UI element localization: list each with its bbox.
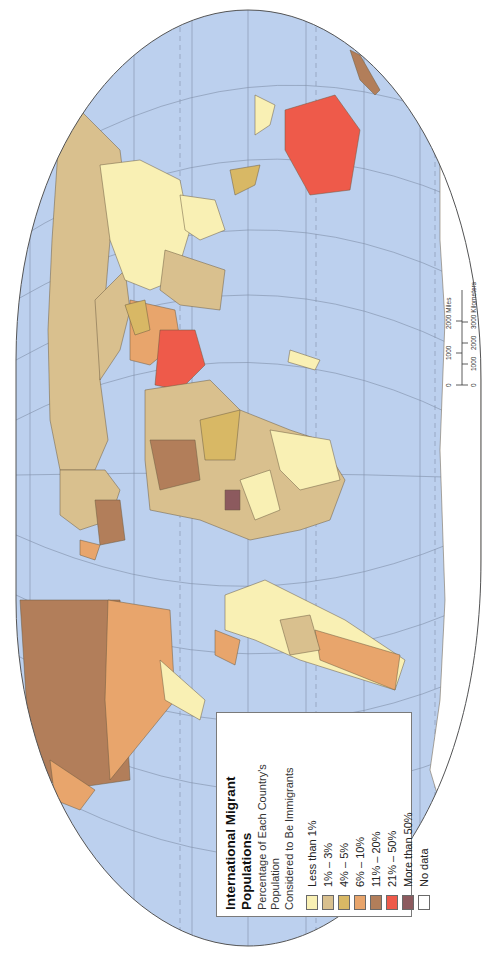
legend-label: 6% – 10% bbox=[354, 837, 366, 887]
legend-subtitle-line2: Considered to Be Immigrants bbox=[283, 721, 296, 910]
legend-item: 4% – 5% bbox=[336, 721, 352, 910]
legend-subtitle-line1: Percentage of Each Country's Population bbox=[256, 721, 282, 910]
scale-miles-tick: 1000 bbox=[445, 346, 452, 360]
legend-label: More than 50% bbox=[402, 812, 414, 887]
scale-km-tick: 1000 bbox=[470, 357, 477, 371]
legend-title-line2: Populations bbox=[239, 721, 255, 910]
map-legend: International Migrant Populations Percen… bbox=[216, 712, 412, 917]
legend-swatch bbox=[370, 895, 382, 910]
legend-swatch bbox=[306, 895, 318, 910]
legend-label: No data bbox=[418, 848, 430, 887]
western-europe bbox=[95, 500, 125, 545]
scale-km-tick: 3000 Kilometers bbox=[470, 282, 477, 329]
legend-swatch bbox=[322, 895, 334, 910]
legend-swatch bbox=[386, 895, 398, 910]
legend-item: 21% – 50% bbox=[384, 721, 400, 910]
legend-item: More than 50% bbox=[400, 721, 416, 910]
legend-title-line1: International Migrant bbox=[223, 721, 239, 910]
legend-item: No data bbox=[416, 721, 432, 910]
legend-swatch bbox=[354, 895, 366, 910]
scale-miles-tick: 0 bbox=[445, 383, 452, 387]
legend-label: 11% – 20% bbox=[370, 832, 382, 887]
scale-km-tick: 0 bbox=[470, 383, 477, 387]
legend-label: 1% – 3% bbox=[322, 843, 334, 887]
scale-bar: 0 1000 2000 Miles 0 1000 2000 3000 Kilom… bbox=[440, 245, 485, 395]
legend-item: 6% – 10% bbox=[352, 721, 368, 910]
legend-item: 11% – 20% bbox=[368, 721, 384, 910]
legend-item: Less than 1% bbox=[304, 721, 320, 910]
legend-label: 21% – 50% bbox=[386, 831, 398, 887]
scale-km-tick: 2000 bbox=[470, 336, 477, 350]
legend-swatch bbox=[402, 895, 414, 910]
legend-item: 1% – 3% bbox=[320, 721, 336, 910]
legend-swatch bbox=[338, 895, 350, 910]
namibia-region bbox=[225, 490, 240, 510]
legend-swatch bbox=[418, 895, 430, 910]
scale-miles-tick: 2000 Miles bbox=[445, 298, 452, 329]
legend-items: Less than 1%1% – 3%4% – 5%6% – 10%11% – … bbox=[304, 721, 432, 910]
legend-label: 4% – 5% bbox=[338, 843, 350, 887]
legend-label: Less than 1% bbox=[306, 820, 318, 887]
